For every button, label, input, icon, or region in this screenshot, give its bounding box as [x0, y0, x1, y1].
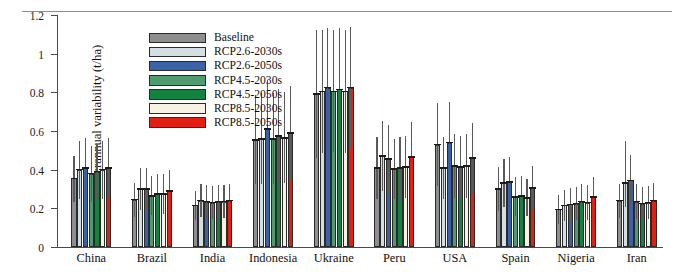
error-bar-cap [347, 87, 354, 89]
y-tick-label: 1 [38, 49, 44, 61]
figure-bar-chart: 00.20.40.60.811.2 Yield interannual vari… [0, 0, 683, 275]
error-bar-cap [446, 142, 453, 144]
bar-group-china [71, 15, 111, 247]
y-tick-1.2: 1.2 [51, 15, 57, 16]
top-divider-rule [22, 11, 672, 12]
legend-swatch [149, 47, 206, 58]
error-bar-cap [385, 158, 392, 160]
legend-label: RCP2.6-2030s [214, 46, 282, 58]
legend-swatch [149, 117, 206, 128]
legend-swatch [149, 89, 206, 100]
x-tick-label-china: China [76, 251, 106, 266]
bar-group-iran [617, 15, 657, 247]
x-tick-label-usa: USA [442, 251, 467, 266]
bar-group-peru [374, 15, 414, 247]
legend-label: Baseline [214, 32, 254, 44]
y-tick-1: 1 [51, 54, 57, 55]
legend-label: RCP4.5-2050s [214, 89, 282, 101]
error-bar-cap [590, 196, 597, 198]
bar-group-usa [435, 15, 475, 247]
legend-label: RCP2.6-2050s [214, 60, 282, 72]
error-bar-cap [82, 167, 89, 169]
legend-label: RCP4.5-2030s [214, 75, 282, 87]
error-bar-cap [650, 200, 657, 202]
x-tick-label-iran: Iran [627, 251, 647, 266]
x-axis-line [57, 247, 663, 248]
legend-swatch [149, 33, 206, 44]
y-tick-0.8: 0.8 [51, 92, 57, 93]
bar-group-spain [496, 15, 536, 247]
legend-item-rcp8-5-2050s: RCP8.5-2050s [149, 116, 282, 130]
error-bar-cap [143, 188, 150, 190]
y-tick-0.4: 0.4 [51, 170, 57, 171]
bar-group-nigeria [556, 15, 596, 247]
y-tick-label: 1.2 [30, 10, 44, 22]
error-bar-cap [324, 87, 331, 89]
x-tick-label-peru: Peru [383, 251, 406, 266]
error-bar [625, 141, 626, 208]
error-bar-cap [469, 157, 476, 159]
legend-item-rcp4-5-2050s: RCP4.5-2050s [149, 87, 282, 101]
error-bar-cap [434, 144, 441, 146]
legend-label: RCP8.5-2050s [214, 117, 282, 129]
x-tick-label-spain: Spain [501, 251, 529, 266]
error-bar-cap [379, 155, 386, 157]
y-tick-label: 0.6 [30, 126, 44, 138]
plot-area: 00.20.40.60.811.2 Yield interannual vari… [57, 15, 663, 247]
x-tick-label-indonesia: Indonesia [249, 251, 297, 266]
y-tick-0.6: 0.6 [51, 131, 57, 132]
legend-item-rcp4-5-2030s: RCP4.5-2030s [149, 73, 282, 87]
x-tick-label-nigeria: Nigeria [558, 251, 595, 266]
legend-item-baseline: Baseline [149, 31, 282, 45]
x-tick-label-ukraine: Ukraine [314, 251, 354, 266]
legend-swatch [149, 75, 206, 86]
y-tick-label: 0.2 [30, 203, 44, 215]
y-tick-0.2: 0.2 [51, 208, 57, 209]
y-tick-label: 0.4 [30, 165, 44, 177]
legend-item-rcp2-6-2030s: RCP2.6-2030s [149, 45, 282, 59]
error-bar-cap [529, 187, 536, 189]
error-bar-cap [105, 167, 112, 169]
legend-item-rcp8-5-2030s: RCP8.5-2030s [149, 101, 282, 115]
error-bar-cap [287, 132, 294, 134]
bar-group-ukraine [314, 15, 354, 247]
legend-swatch [149, 61, 206, 72]
legend: BaselineRCP2.6-2030sRCP2.6-2050sRCP4.5-2… [149, 31, 282, 130]
error-bar-cap [226, 200, 233, 202]
y-tick-0: 0 [51, 247, 57, 248]
y-axis-line [57, 15, 58, 247]
y-tick-label: 0 [38, 242, 44, 254]
error-bar-cap [627, 180, 634, 182]
legend-label: RCP8.5-2030s [214, 103, 282, 115]
x-tick-label-brazil: Brazil [137, 251, 167, 266]
error-bar-cap [506, 181, 513, 183]
error-bar-cap [408, 156, 415, 158]
legend-swatch [149, 103, 206, 114]
y-tick-label: 0.8 [30, 87, 44, 99]
error-bar-cap [166, 190, 173, 192]
legend-item-rcp2-6-2050s: RCP2.6-2050s [149, 59, 282, 73]
x-tick-label-india: India [200, 251, 225, 266]
